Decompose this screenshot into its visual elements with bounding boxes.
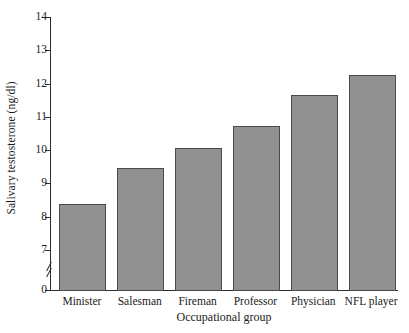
bar-series [51,17,398,291]
y-tick-label: 7 [41,244,47,256]
x-tick-label: Minister [62,296,101,308]
y-axis-title-text: Salivary testosterone (ng/dl) [5,81,17,214]
y-tick-label: 14 [36,11,48,23]
x-tick-label: Physician [291,296,336,308]
y-tick-label: 10 [36,144,48,156]
x-tick-label: Professor [234,296,277,308]
x-tick-label: Salesman [118,296,162,308]
bar [175,148,222,291]
y-tick-label: 0 [41,284,47,296]
x-axis-title: Occupational group [50,310,398,325]
bar [291,95,338,291]
y-tick-label: 13 [36,45,48,57]
bar [117,168,164,291]
y-tick-label: 9 [41,178,47,190]
bar [349,75,396,291]
bar [233,126,280,291]
bar [59,204,106,291]
y-tick-label: 8 [41,211,47,223]
y-tick-label: 11 [36,111,47,123]
x-tick-label: Fireman [178,296,216,308]
y-axis-title: Salivary testosterone (ng/dl) [0,0,22,295]
bar-chart-figure: Salivary testosterone (ng/dl) 0789101112… [0,0,409,333]
plot-area: 07891011121314 MinisterSalesmanFiremanPr… [50,17,398,291]
x-tick-label: NFL player [345,296,398,308]
y-tick-label: 12 [36,78,48,90]
